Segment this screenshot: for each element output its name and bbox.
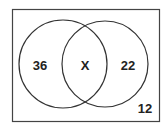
- right-only-value: 22: [121, 58, 135, 73]
- outside-value: 12: [138, 101, 152, 116]
- left-only-value: 36: [33, 58, 47, 73]
- intersection-value: X: [81, 58, 90, 73]
